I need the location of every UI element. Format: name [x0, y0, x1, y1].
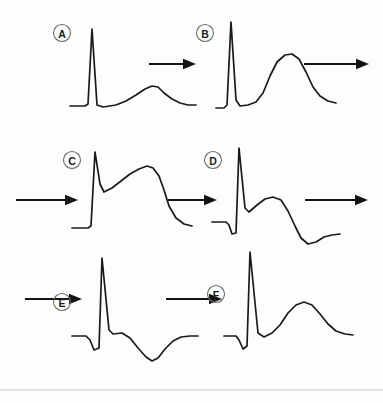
panel-label-e-text: E	[58, 297, 65, 309]
arrow-a-to-b	[149, 59, 196, 69]
waveform-panel-e	[72, 258, 198, 361]
ecg-evolution-figure: A B C D E F	[0, 0, 383, 403]
waveform-panel-f	[224, 252, 353, 349]
arrow-a-to-b-head	[183, 59, 196, 69]
figure-canvas: A B C D E F	[0, 0, 383, 403]
waveform-panel-c	[72, 152, 192, 228]
panel-label-a-text: A	[58, 28, 66, 40]
arrow-d-to-e	[305, 195, 368, 205]
arrow-b-to-c-head	[356, 59, 369, 69]
arrow-c-to-d	[168, 195, 217, 205]
arrow-c-to-d-head	[204, 195, 217, 205]
waveform-panel-a	[70, 29, 196, 107]
waveform-panel-d	[212, 148, 340, 244]
panel-label-d-text: D	[209, 155, 217, 167]
panel-label-a: A	[54, 25, 71, 42]
arrow-d-to-e-head	[355, 195, 368, 205]
panel-label-b-text: B	[201, 28, 209, 40]
arrow-b-to-c	[304, 59, 369, 69]
arrow-into-c	[16, 195, 78, 205]
panel-label-c-text: C	[68, 155, 76, 167]
arrow-group	[16, 59, 369, 304]
panel-label-c: C	[64, 152, 81, 169]
panel-label-b: B	[197, 25, 214, 42]
panel-label-f-text: F	[213, 289, 220, 301]
arrow-into-c-head	[65, 195, 78, 205]
waveform-panel-b	[216, 22, 336, 108]
waveform-group	[70, 22, 353, 361]
panel-label-e: E	[54, 294, 71, 311]
panel-label-group: A B C D E F	[54, 25, 225, 311]
panel-label-d: D	[205, 152, 222, 169]
panel-label-f: F	[208, 286, 225, 303]
